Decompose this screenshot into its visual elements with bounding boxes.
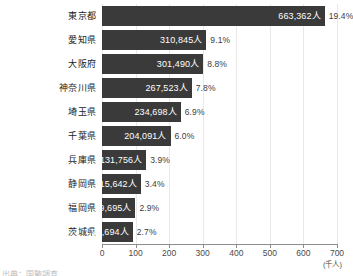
bar-value-label: 131,756人 xyxy=(100,150,146,170)
bar-value-label: 99,695人 xyxy=(94,198,135,218)
bar-percent-label: 2.7% xyxy=(133,222,157,242)
x-tick-label: 700 xyxy=(330,248,344,258)
bar-value-label: 91,694人 xyxy=(92,222,133,242)
category-label: 兵庫県 xyxy=(0,148,96,172)
bar-row: 茨城県91,694人2.7% xyxy=(0,220,350,244)
bar-value-label: 234,698人 xyxy=(134,102,180,122)
bar-percent-label: 3.9% xyxy=(146,150,170,170)
bar-value-label: 115,642人 xyxy=(95,174,141,194)
bar-value-label: 310,845人 xyxy=(160,30,206,50)
bar-percent-label: 6.0% xyxy=(171,126,195,146)
bar-value-label: 267,523人 xyxy=(145,78,191,98)
category-label: 東京都 xyxy=(0,4,96,28)
bar-row: 千葉県204,091人6.0% xyxy=(0,124,350,148)
bar-value-label: 301,490人 xyxy=(157,54,203,74)
bar-percent-label: 19.4% xyxy=(325,6,353,26)
category-label: 愛知県 xyxy=(0,28,96,52)
category-label: 静岡県 xyxy=(0,172,96,196)
bar-percent-label: 9.1% xyxy=(206,30,230,50)
bar-row: 埼玉県234,698人6.9% xyxy=(0,100,350,124)
bar-percent-label: 2.9% xyxy=(135,198,159,218)
bar-row: 静岡県115,642人3.4% xyxy=(0,172,350,196)
category-label: 大阪府 xyxy=(0,52,96,76)
x-tick-label: 200 xyxy=(162,248,176,258)
bar-percent-label: 6.9% xyxy=(181,102,205,122)
x-axis-unit-label: (千人) xyxy=(323,258,342,269)
category-label: 福岡県 xyxy=(0,196,96,220)
x-tick-label: 0 xyxy=(100,248,105,258)
x-tick-label: 300 xyxy=(196,248,210,258)
bar-row: 神奈川県267,523人7.8% xyxy=(0,76,350,100)
bar-percent-label: 7.8% xyxy=(192,78,216,98)
bar-row: 大阪府301,490人8.8% xyxy=(0,52,350,76)
bar-percent-label: 3.4% xyxy=(141,174,165,194)
category-label: 埼玉県 xyxy=(0,100,96,124)
category-label: 茨城県 xyxy=(0,220,96,244)
category-label: 神奈川県 xyxy=(0,76,96,100)
bar-value-label: 663,362人 xyxy=(278,6,324,26)
x-tick-label: 400 xyxy=(229,248,243,258)
x-tick-label: 100 xyxy=(128,248,142,258)
category-label: 千葉県 xyxy=(0,124,96,148)
bar-value-label: 204,091人 xyxy=(124,126,170,146)
bar-row: 東京都663,362人19.4% xyxy=(0,4,350,28)
bar-percent-label: 8.8% xyxy=(203,54,227,74)
x-tick-label: 500 xyxy=(263,248,277,258)
bar-row: 兵庫県131,756人3.9% xyxy=(0,148,350,172)
bar-row: 愛知県310,845人9.1% xyxy=(0,28,350,52)
x-tick-label: 600 xyxy=(296,248,310,258)
chart-caption: 出典：国勢調査 xyxy=(2,270,58,276)
bar-row: 福岡県99,695人2.9% xyxy=(0,196,350,220)
